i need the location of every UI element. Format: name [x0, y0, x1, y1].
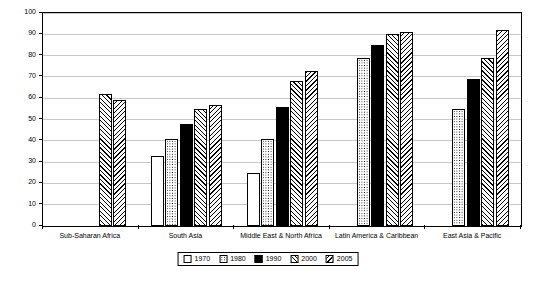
x-axis-tick-mark: [424, 225, 425, 229]
y-axis-tick-mark: [39, 54, 42, 55]
y-axis-tick-label: 100: [6, 8, 36, 15]
y-axis-tick-label: 60: [6, 93, 36, 100]
y-axis-tick-mark: [39, 12, 42, 13]
y-axis-tick-label: 80: [6, 51, 36, 58]
x-axis-category-label: Middle East & North Africa: [233, 232, 329, 240]
legend-item: 1990: [255, 255, 282, 263]
bar-chart: percent 0102030405060708090100 Sub-Sahar…: [0, 0, 536, 282]
legend-label: 2000: [301, 255, 317, 263]
legend-label: 1980: [230, 255, 246, 263]
y-axis-tick-label: 40: [6, 136, 36, 143]
legend-swatch-1970: [184, 255, 192, 263]
legend-item: 2005: [326, 255, 353, 263]
y-axis-tick-label: 70: [6, 72, 36, 79]
y-axis-tick-mark: [39, 33, 42, 34]
y-axis-tick-mark: [39, 161, 42, 162]
x-axis-category-label: East Asia & Pacific: [424, 232, 520, 240]
bar: [452, 109, 465, 226]
y-axis-tick-mark: [39, 139, 42, 140]
x-axis-tick-mark: [329, 225, 330, 229]
bar: [481, 58, 494, 226]
y-axis-tick-mark: [39, 118, 42, 119]
x-axis-tick-mark: [138, 225, 139, 229]
x-axis-tick-mark: [233, 225, 234, 229]
x-axis-tick-mark: [42, 225, 43, 229]
bars-layer: [43, 13, 521, 226]
x-axis-tick-mark: [520, 225, 521, 229]
y-axis-tick-label: 50: [6, 115, 36, 122]
bar: [496, 30, 509, 226]
x-axis-category-label: Sub-Saharan Africa: [42, 232, 138, 240]
legend-label: 2005: [337, 255, 353, 263]
y-axis-tick-mark: [39, 182, 42, 183]
legend-swatch-2005: [326, 255, 334, 263]
y-axis-tick-label: 10: [6, 200, 36, 207]
legend-label: 1990: [266, 255, 282, 263]
y-axis-tick-label: 30: [6, 157, 36, 164]
legend-item: 1980: [219, 255, 246, 263]
legend-swatch-1980: [219, 255, 227, 263]
plot-area: [42, 12, 522, 227]
bar-group: [43, 13, 521, 226]
y-axis-tick-label: 0: [6, 221, 36, 228]
legend-item: 2000: [290, 255, 317, 263]
y-axis-tick-mark: [39, 203, 42, 204]
x-axis-category-label: South Asia: [138, 232, 234, 240]
chart-legend: 19701980199020002005: [178, 252, 359, 266]
y-axis-tick-mark: [39, 75, 42, 76]
legend-swatch-1990: [255, 255, 263, 263]
legend-label: 1970: [195, 255, 211, 263]
y-axis-tick-label: 90: [6, 29, 36, 36]
x-axis-category-label: Latin America & Caribbean: [329, 232, 425, 240]
y-axis-tick-label: 20: [6, 178, 36, 185]
y-axis-tick-mark: [39, 97, 42, 98]
bar: [467, 79, 480, 226]
legend-swatch-2000: [290, 255, 298, 263]
legend-item: 1970: [184, 255, 211, 263]
